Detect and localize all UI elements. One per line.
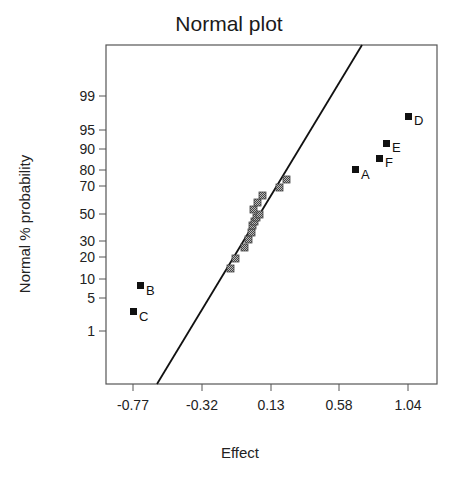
- significant-effects: [130, 113, 412, 315]
- effect-marker-d: [405, 113, 412, 120]
- y-tick-label: 95: [79, 122, 95, 138]
- point-label-d: D: [414, 113, 423, 128]
- point-label-e: E: [392, 140, 401, 155]
- effect-marker: [276, 184, 283, 191]
- x-tick-label: -0.32: [186, 397, 218, 413]
- effect-marker-b: [137, 282, 144, 289]
- effect-marker-c: [130, 308, 137, 315]
- plot-frame: [106, 45, 437, 384]
- effect-marker-a: [352, 166, 359, 173]
- y-tick-label: 80: [79, 162, 95, 178]
- effect-marker: [241, 244, 248, 251]
- insignificant-effects: [227, 176, 290, 272]
- y-tick-label: 90: [79, 141, 95, 157]
- y-tick-label: 20: [79, 249, 95, 265]
- effect-marker: [232, 255, 239, 262]
- x-tick-label: 0.58: [325, 397, 352, 413]
- y-tick-label: 10: [79, 271, 95, 287]
- effect-marker: [245, 236, 252, 243]
- point-label-c: C: [139, 309, 148, 324]
- point-label-f: F: [385, 155, 393, 170]
- effect-marker-f: [376, 155, 383, 162]
- effect-marker: [259, 192, 266, 199]
- y-tick-label: 99: [79, 88, 95, 104]
- y-tick-label: 70: [79, 178, 95, 194]
- effect-marker: [283, 176, 290, 183]
- x-tick-label: -0.77: [117, 397, 149, 413]
- effect-marker-e: [383, 140, 390, 147]
- y-tick-label: 50: [79, 206, 95, 222]
- y-tick-label: 5: [87, 290, 95, 306]
- y-tick-label: 30: [79, 233, 95, 249]
- x-tick-label: 1.04: [394, 397, 421, 413]
- effect-marker: [227, 265, 234, 272]
- point-label-a: A: [361, 167, 370, 182]
- x-tick-label: 0.13: [257, 397, 284, 413]
- effect-marker: [250, 206, 257, 213]
- y-axis: [99, 96, 106, 331]
- effect-marker: [254, 199, 261, 206]
- effect-marker: [248, 229, 255, 236]
- x-axis: [133, 384, 408, 391]
- y-tick-label: 1: [87, 323, 95, 339]
- point-label-b: B: [146, 283, 155, 298]
- plot-area: 99 95 90 80 70 50 30 20 10 5 1 -0.77 -0.…: [0, 0, 458, 483]
